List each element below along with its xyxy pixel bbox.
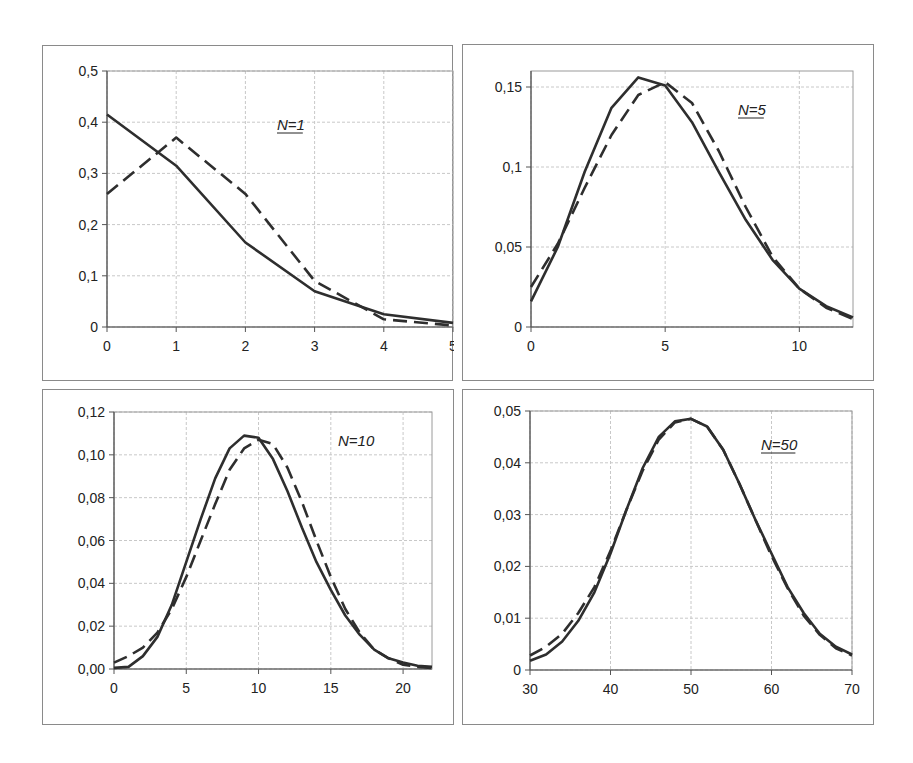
x-tick-label: 0: [527, 338, 535, 354]
n-annotation-label: N=10: [338, 432, 375, 449]
x-tick-label: 5: [182, 680, 190, 696]
plot-area: [531, 71, 853, 327]
gridlines: [107, 71, 453, 327]
y-tick-label: 0,10: [78, 447, 105, 463]
series-dashed-line: [107, 138, 453, 326]
x-tick-label: 0: [110, 680, 118, 696]
chart-svg: 0,000,020,040,060,080,100,1205101520N=10: [43, 390, 455, 726]
gridlines: [531, 71, 853, 327]
y-tick-label: 0,08: [78, 490, 105, 506]
x-tick-label: 70: [844, 681, 860, 697]
y-tick-label: 0,1: [79, 268, 99, 284]
series-solid-line: [530, 419, 852, 661]
chart-panel-n-10: 0,000,020,040,060,080,100,1205101520N=10: [42, 389, 454, 725]
x-tick-label: 1: [172, 338, 180, 354]
gridlines: [530, 411, 852, 670]
series-solid-line: [114, 436, 432, 668]
series-dashed-line: [114, 440, 432, 668]
chart-panel-n-5: 00,050,10,150510N=5: [462, 44, 874, 381]
x-tick-label: 5: [449, 338, 454, 354]
series-solid-line: [107, 115, 453, 323]
y-tick-label: 0,3: [79, 165, 99, 181]
y-tick-label: 0,02: [78, 618, 105, 634]
x-tick-label: 40: [603, 681, 619, 697]
y-tick-label: 0,05: [494, 403, 521, 419]
series-solid-line: [531, 77, 853, 317]
n-annotation-label: N=1: [277, 116, 305, 133]
x-tick-label: 4: [380, 338, 388, 354]
y-tick-label: 0: [513, 662, 521, 678]
y-tick-label: 0,5: [79, 63, 99, 79]
x-tick-label: 5: [661, 338, 669, 354]
x-tick-label: 20: [395, 680, 411, 696]
x-tick-label: 15: [323, 680, 339, 696]
x-tick-label: 3: [311, 338, 319, 354]
y-tick-label: 0,15: [495, 79, 522, 95]
x-tick-label: 0: [103, 338, 111, 354]
y-tick-label: 0: [90, 319, 98, 335]
chart-panel-n-1: 00,10,20,30,40,5012345N=1: [42, 45, 453, 381]
plot-area: [107, 71, 453, 327]
chart-svg: 00,10,20,30,40,5012345N=1: [43, 46, 454, 382]
n-annotation-label: N=5: [738, 101, 767, 118]
y-tick-label: 0,2: [79, 217, 99, 233]
y-tick-label: 0,04: [494, 455, 521, 471]
y-tick-label: 0,01: [494, 610, 521, 626]
x-tick-label: 50: [683, 681, 699, 697]
x-tick-label: 30: [522, 681, 538, 697]
y-tick-label: 0,12: [78, 404, 105, 420]
n-annotation-label: N=50: [761, 436, 798, 453]
x-tick-label: 60: [764, 681, 780, 697]
chart-panel-n-50: 00,010,020,030,040,053040506070N=50: [462, 389, 874, 725]
y-tick-label: 0,05: [495, 239, 522, 255]
series-dashed-line: [531, 82, 853, 319]
y-tick-label: 0,04: [78, 575, 105, 591]
y-tick-label: 0: [514, 319, 522, 335]
y-tick-label: 0,4: [79, 114, 99, 130]
chart-svg: 00,010,020,030,040,053040506070N=50: [463, 390, 875, 726]
chart-svg: 00,050,10,150510N=5: [463, 45, 875, 382]
y-tick-label: 0,02: [494, 558, 521, 574]
y-tick-label: 0,06: [78, 533, 105, 549]
x-tick-label: 10: [251, 680, 267, 696]
y-tick-label: 0,03: [494, 507, 521, 523]
y-tick-label: 0,00: [78, 661, 105, 677]
y-tick-label: 0,1: [503, 159, 523, 175]
x-tick-label: 2: [242, 338, 250, 354]
x-tick-label: 10: [792, 338, 808, 354]
